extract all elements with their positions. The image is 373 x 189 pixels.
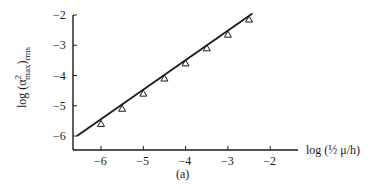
y-tick-label: −6	[53, 129, 66, 143]
figure-caption: (a)	[176, 167, 189, 181]
y-tick-label: −2	[53, 8, 66, 22]
y-tick-label: −3	[53, 38, 66, 52]
axes	[73, 15, 298, 150]
x-tick-label: −4	[179, 154, 192, 168]
x-axis-label: log (½ μ/h)	[306, 143, 360, 157]
x-tick-label: −5	[136, 154, 149, 168]
y-label-outer-sub: rms	[22, 46, 32, 60]
chart: −6−5−4−3−2−2−3−4−5−6 log (½ μ/h) log (α2…	[0, 0, 373, 189]
ticks: −6−5−4−3−2−2−3−4−5−6	[53, 8, 276, 168]
y-tick-label: −4	[53, 69, 66, 83]
x-tick-label: −2	[263, 154, 276, 168]
y-label-prefix: log (α	[15, 79, 29, 108]
y-tick-label: −5	[53, 99, 66, 113]
x-tick-label: −3	[221, 154, 234, 168]
y-axis-label: log (α2max)rms	[13, 46, 32, 108]
y-label-sub: max	[22, 64, 32, 80]
x-tick-label: −6	[94, 154, 107, 168]
data-points	[98, 16, 253, 126]
